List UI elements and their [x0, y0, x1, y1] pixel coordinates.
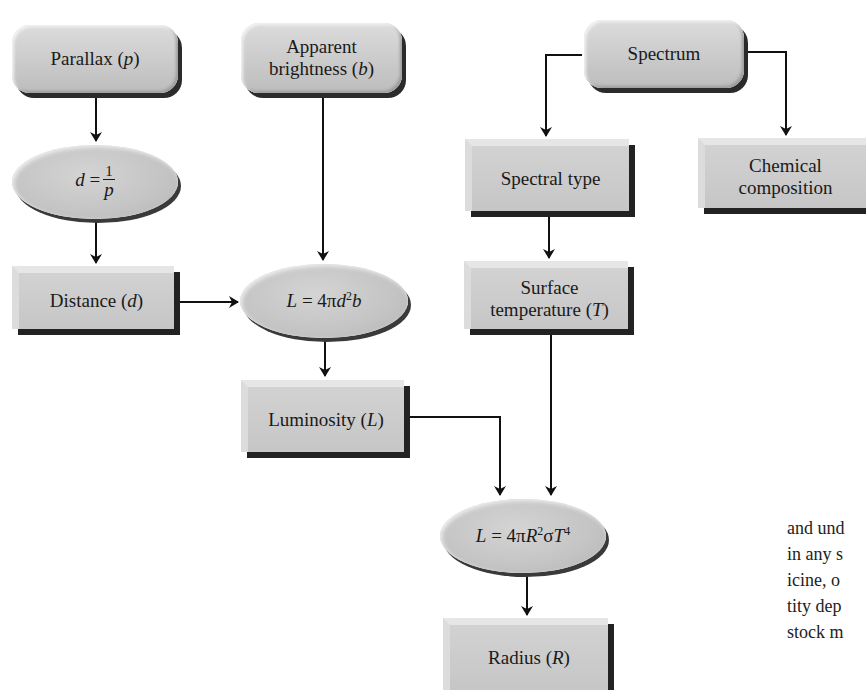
- spectral-type-label: Spectral type: [501, 168, 601, 190]
- parallax-label: Parallax (p): [50, 48, 139, 70]
- node-parallax: Parallax (p): [12, 25, 178, 93]
- distance-formula-text: d =1p: [75, 164, 114, 200]
- body-text-fragment: and und in any s icine, o tity dep stock…: [787, 515, 845, 645]
- node-luminosity: Luminosity (L): [241, 380, 404, 452]
- node-chemical-composition: Chemicalcomposition: [698, 138, 866, 208]
- stefan-formula-text: L = 4πR2σT4: [476, 525, 570, 547]
- body-text-line: and und: [787, 515, 845, 541]
- luminosity-label: Luminosity (L): [268, 409, 384, 431]
- node-distance: Distance (d): [12, 266, 174, 329]
- node-apparent-brightness: Apparentbrightness (b): [241, 23, 402, 93]
- body-text-line: icine, o: [787, 567, 845, 593]
- node-spectrum: Spectrum: [584, 20, 744, 88]
- radius-label: Radius (R): [488, 647, 570, 669]
- body-text-line: stock m: [787, 619, 845, 645]
- node-stefan-boltzmann-formula: L = 4πR2σT4: [440, 499, 606, 573]
- node-spectral-type: Spectral type: [465, 139, 629, 211]
- body-text-line: tity dep: [787, 593, 845, 619]
- spectrum-label: Spectrum: [628, 43, 701, 65]
- chemical-composition-label: Chemicalcomposition: [739, 155, 833, 199]
- apparent-brightness-label: Apparentbrightness (b): [269, 36, 374, 80]
- luminosity-formula-text: L = 4πd2b: [287, 290, 362, 312]
- body-text-line: in any s: [787, 541, 845, 567]
- node-distance-formula: d =1p: [12, 145, 178, 219]
- node-radius: Radius (R): [443, 618, 608, 690]
- distance-label: Distance (d): [50, 290, 143, 312]
- node-luminosity-formula: L = 4πd2b: [240, 264, 408, 338]
- node-surface-temperature: Surfacetemperature (T): [464, 261, 628, 329]
- surface-temperature-label: Surfacetemperature (T): [490, 277, 609, 321]
